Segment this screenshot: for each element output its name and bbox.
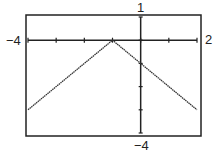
viewing-window-frame	[26, 15, 201, 136]
data-line	[28, 40, 197, 110]
x-min-label: −4	[6, 34, 21, 47]
x-max-label: 2	[205, 33, 212, 46]
axes	[28, 17, 197, 133]
y-min-label: −4	[134, 139, 149, 152]
y-max-label: 1	[137, 1, 144, 14]
graph	[0, 0, 224, 166]
